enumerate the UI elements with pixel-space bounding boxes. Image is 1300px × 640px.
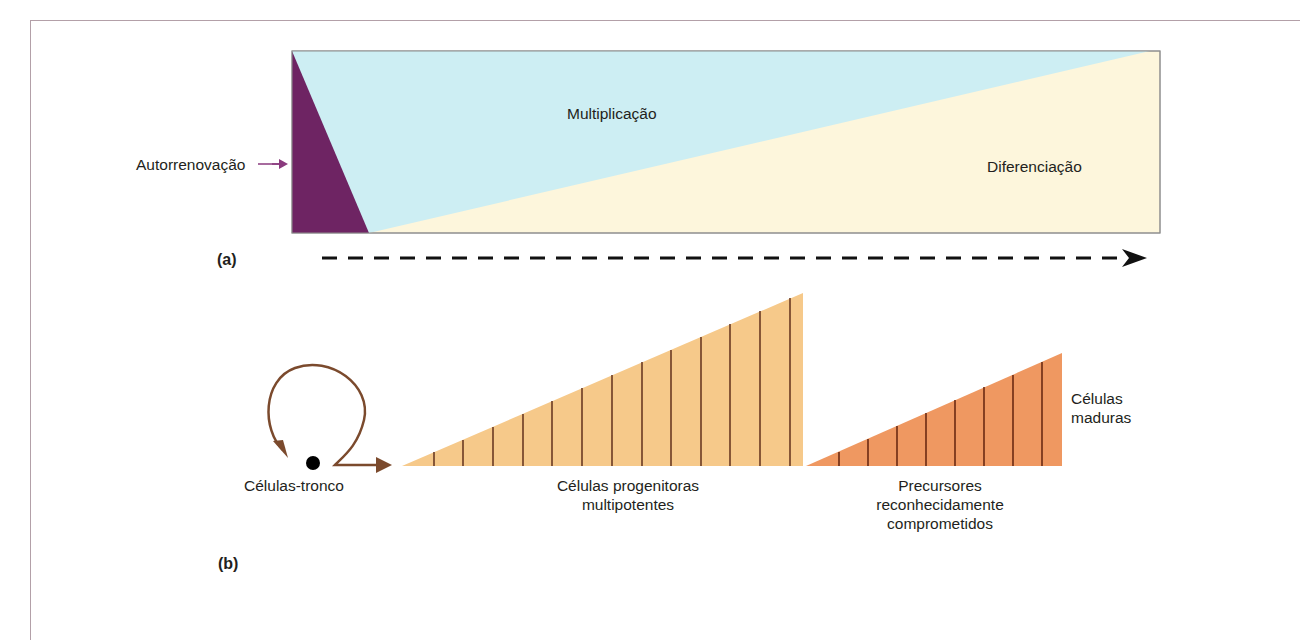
timeline-dashed-arrow-icon: [322, 249, 1147, 267]
self-renewal-loop-icon: [268, 365, 392, 473]
self-renewal-arrow-icon: [258, 159, 288, 169]
self-renewal-label: Autorrenovação: [136, 155, 245, 174]
differentiation-label: Diferenciação: [987, 157, 1082, 176]
stem-cells-label: Células-tronco: [244, 476, 344, 495]
mature-cells-label: Células maduras: [1071, 389, 1131, 427]
progenitor-triangle: [402, 293, 803, 466]
precursor-triangle: [806, 353, 1062, 466]
progenitors-label-line1: Células progenitoras: [523, 476, 733, 495]
panel-a-box: [292, 51, 1160, 233]
mature-label-line1: Células: [1071, 389, 1131, 408]
progenitors-label-line2: multipotentes: [523, 495, 733, 514]
precursors-label: Precursores reconhecidamente comprometid…: [860, 476, 1020, 533]
multiplication-label: Multiplicação: [567, 104, 657, 123]
precursors-label-line2: reconhecidamente: [860, 495, 1020, 514]
stem-cell-dot: [306, 456, 320, 470]
panel-b-label: (b): [218, 554, 238, 573]
precursors-label-line3: comprometidos: [860, 514, 1020, 533]
precursors-label-line1: Precursores: [860, 476, 1020, 495]
panel-a-label: (a): [217, 250, 237, 269]
mature-label-line2: maduras: [1071, 408, 1131, 427]
progenitors-label: Células progenitoras multipotentes: [523, 476, 733, 514]
